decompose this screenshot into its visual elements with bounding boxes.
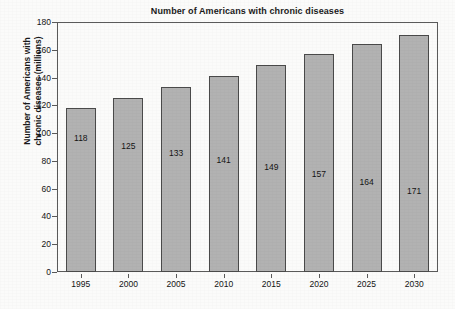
y-tick-label: 40 (20, 211, 51, 221)
x-tick-label: 2025 (347, 279, 387, 289)
y-tick-label: 120 (20, 100, 51, 110)
x-tick-label: 2020 (299, 279, 339, 289)
bar-value-label: 125 (114, 141, 142, 151)
x-tick-mark (81, 274, 82, 278)
x-tick-mark (414, 274, 415, 278)
bar: 125 (113, 98, 143, 272)
y-tick-label: 140 (20, 73, 51, 83)
y-tick-label: 80 (20, 156, 51, 166)
y-tick-label: 180 (20, 17, 51, 27)
x-tick-label: 1995 (61, 279, 101, 289)
bar-value-label: 171 (400, 186, 428, 196)
x-tick-mark (176, 274, 177, 278)
x-tick-mark (128, 274, 129, 278)
bar-value-label: 164 (353, 177, 381, 187)
y-tick-label: 160 (20, 45, 51, 55)
bar-value-label: 149 (257, 162, 285, 172)
bar-value-label: 133 (162, 148, 190, 158)
bar: 157 (304, 54, 334, 272)
x-tick-mark (319, 274, 320, 278)
bar-value-label: 157 (305, 169, 333, 179)
x-tick-label: 2010 (204, 279, 244, 289)
chart-figure: Number of Americans with chronic disease… (0, 0, 455, 309)
x-tick-label: 2015 (251, 279, 291, 289)
bar-series: 118125133141149157164171 (57, 22, 438, 272)
y-tick-label: 20 (20, 239, 51, 249)
x-tick-label: 2000 (108, 279, 148, 289)
x-tick-mark (271, 274, 272, 278)
bar: 133 (161, 87, 191, 272)
bar: 118 (66, 108, 96, 272)
y-axis-ticks: 020406080100120140160180 (0, 0, 57, 309)
y-tick-label: 100 (20, 128, 51, 138)
y-tick-label: 60 (20, 184, 51, 194)
bar: 149 (256, 65, 286, 272)
bar: 171 (399, 35, 429, 273)
bar-value-label: 141 (210, 155, 238, 165)
x-tick-mark (367, 274, 368, 278)
x-axis-ticks: 19952000200520102015202020252030 (57, 274, 438, 294)
bar-value-label: 118 (67, 133, 95, 143)
bar: 141 (209, 76, 239, 272)
chart-title: Number of Americans with chronic disease… (57, 6, 438, 16)
y-tick-mark (52, 272, 57, 273)
y-tick-label: 0 (20, 267, 51, 277)
x-tick-mark (224, 274, 225, 278)
x-tick-label: 2030 (394, 279, 434, 289)
bar: 164 (352, 44, 382, 272)
x-tick-label: 2005 (156, 279, 196, 289)
